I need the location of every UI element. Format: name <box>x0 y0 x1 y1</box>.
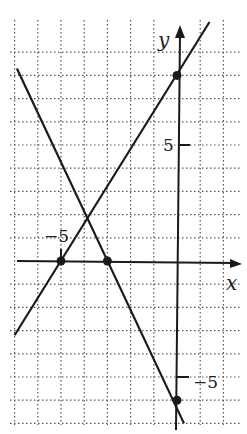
axis-labels: y x −5 5 −5 <box>44 28 237 392</box>
point-marker <box>57 257 66 266</box>
x-axis <box>17 261 234 263</box>
coordinate-plane: y x −5 5 −5 <box>0 0 247 434</box>
x-axis-label: x <box>226 271 237 295</box>
y-axis-arrow-icon <box>175 25 185 38</box>
y-axis-label: y <box>157 28 170 52</box>
y-tick-label-neg5: −5 <box>193 372 218 392</box>
x-tick-label-neg5: −5 <box>44 226 69 246</box>
x-axis-arrow-icon <box>230 259 242 268</box>
y-tick-label-5: 5 <box>163 135 174 155</box>
y-axis <box>176 34 180 430</box>
grid-lines <box>10 20 240 425</box>
point-marker <box>173 396 182 405</box>
point-marker <box>103 257 112 266</box>
point-marker <box>173 71 182 80</box>
line-1 <box>15 22 210 335</box>
